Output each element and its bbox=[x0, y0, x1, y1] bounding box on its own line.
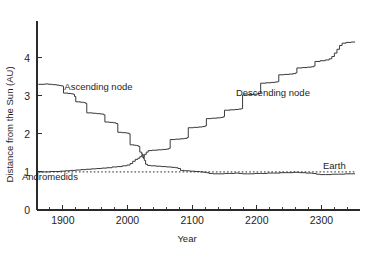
x-axis-tick-label: 2100 bbox=[180, 214, 204, 226]
y-axis-tick-label: 0 bbox=[24, 204, 30, 216]
y-axis-tick-labels: 01234 bbox=[24, 52, 30, 216]
x-axis-tick-label: 2300 bbox=[310, 214, 334, 226]
x-axis-tick-label: 2200 bbox=[245, 214, 269, 226]
x-axis-tick-label: 1900 bbox=[51, 214, 75, 226]
axes bbox=[37, 21, 360, 210]
data-series bbox=[38, 42, 355, 175]
annotation-andromedids: Andromedids bbox=[22, 171, 78, 182]
annotation-descending-node: Descending node bbox=[236, 87, 310, 98]
y-axis-tick-label: 4 bbox=[24, 52, 30, 64]
x-axis-tick-label: 2000 bbox=[116, 214, 140, 226]
y-axis-tick-label: 3 bbox=[24, 90, 30, 102]
annotation-ascending-node: Ascending node bbox=[64, 81, 132, 92]
x-axis-title: Year bbox=[177, 233, 196, 244]
annotation-earth: Earth bbox=[323, 160, 346, 171]
meteor-node-distance-chart: 19002000210022002300 01234 Year Distance… bbox=[0, 0, 365, 260]
y-axis-tick-label: 2 bbox=[24, 128, 30, 140]
series-descending-node bbox=[38, 42, 355, 172]
x-axis-tick-labels: 19002000210022002300 bbox=[51, 214, 333, 226]
chart-annotations: Ascending nodeDescending nodeAndromedids… bbox=[22, 81, 346, 182]
y-axis-title: Distance from the Sun (AU) bbox=[4, 66, 15, 182]
chart-figure: 19002000210022002300 01234 Year Distance… bbox=[0, 0, 365, 260]
